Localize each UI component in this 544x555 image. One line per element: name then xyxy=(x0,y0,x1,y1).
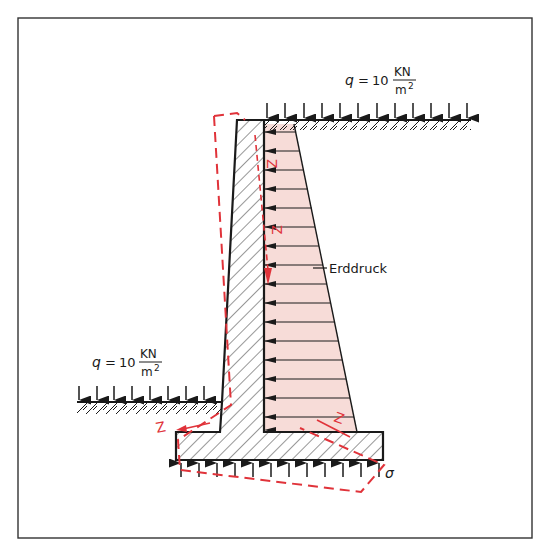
svg-text:KN: KN xyxy=(140,347,157,361)
tension-z-top: Z xyxy=(264,159,280,169)
surcharge-left-arrows xyxy=(79,386,204,400)
svg-text:2: 2 xyxy=(154,363,160,373)
svg-text:KN: KN xyxy=(394,65,411,79)
svg-text:q: q xyxy=(345,72,354,88)
surcharge-top-arrows xyxy=(267,103,467,118)
soil-reaction-arrows xyxy=(181,463,379,477)
svg-text:10: 10 xyxy=(372,73,389,88)
left-load-label: q = 10 KN m 2 xyxy=(92,347,162,379)
front-ground xyxy=(77,402,222,414)
sigma-label: σ xyxy=(385,465,395,481)
svg-text:q: q xyxy=(92,354,101,370)
tension-z-stem: Z xyxy=(269,225,285,235)
svg-text:=: = xyxy=(105,355,116,370)
svg-text:=: = xyxy=(358,73,369,88)
svg-text:10: 10 xyxy=(119,355,136,370)
svg-text:m: m xyxy=(141,365,153,379)
retaining-wall-diagram: Erddruck q = 10 KN m 2 xyxy=(0,0,544,555)
tension-z-toe: Z xyxy=(154,418,167,436)
top-load-label: q = 10 KN m 2 xyxy=(345,65,416,97)
earth-pressure-distribution xyxy=(264,124,357,433)
erddruck-text: Erddruck xyxy=(329,261,388,276)
backfill-ground xyxy=(264,120,471,130)
svg-text:m: m xyxy=(395,83,407,97)
svg-text:2: 2 xyxy=(408,81,414,91)
